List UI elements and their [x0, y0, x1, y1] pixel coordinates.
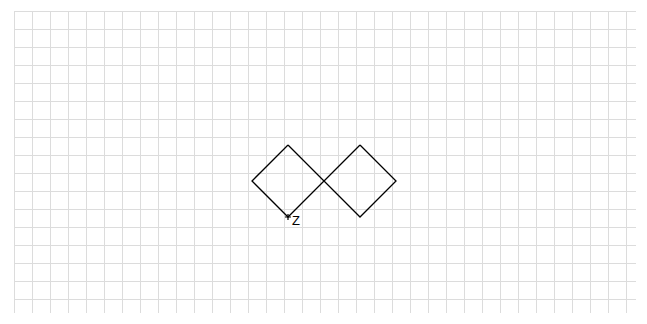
point-z-marker: Z	[285, 213, 300, 228]
grid-diagram: Z	[0, 0, 647, 324]
grid-lines	[14, 11, 636, 313]
point-label: Z	[292, 213, 300, 228]
